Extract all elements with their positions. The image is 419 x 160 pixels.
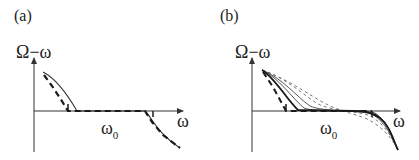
diagram-canvas (0, 0, 419, 160)
panel-a-plot (34, 58, 183, 152)
panel-b-plot (252, 58, 400, 152)
panel-a-solid-curve (43, 72, 180, 148)
